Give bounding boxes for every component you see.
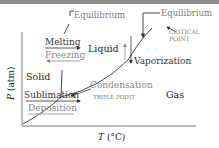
vaporization-label: Vaporization [133,56,191,66]
equilibrium-left-label: Equilibrium [74,10,125,20]
deposition-label: Deposition [28,103,77,113]
critical-point-label-2: POINT [169,35,190,42]
sublimation-label: Sublimation [24,90,79,100]
gas-label: Gas [166,89,184,100]
equilibrium-right-arrow [143,13,160,37]
y-axis-label: P (atm) [6,67,16,101]
condensation-label: Condensation [90,80,153,90]
equilibrium-left-pointer [64,24,69,34]
triple-point-label: TRIPLE POINT [93,94,135,100]
liquid-label: Liquid [88,43,119,54]
freezing-label: Freezing [45,50,86,60]
equilibrium-right-label: Equilibrium [161,8,212,18]
solid-label: Solid [26,71,50,82]
x-axis-label: T (°C) [98,132,125,142]
phase-diagram: P (atm) T (°C) Equilibrium Equilibrium C… [0,0,219,148]
melting-label: Melting [45,37,81,47]
critical-point-label-1: CRITICAL [169,28,200,35]
